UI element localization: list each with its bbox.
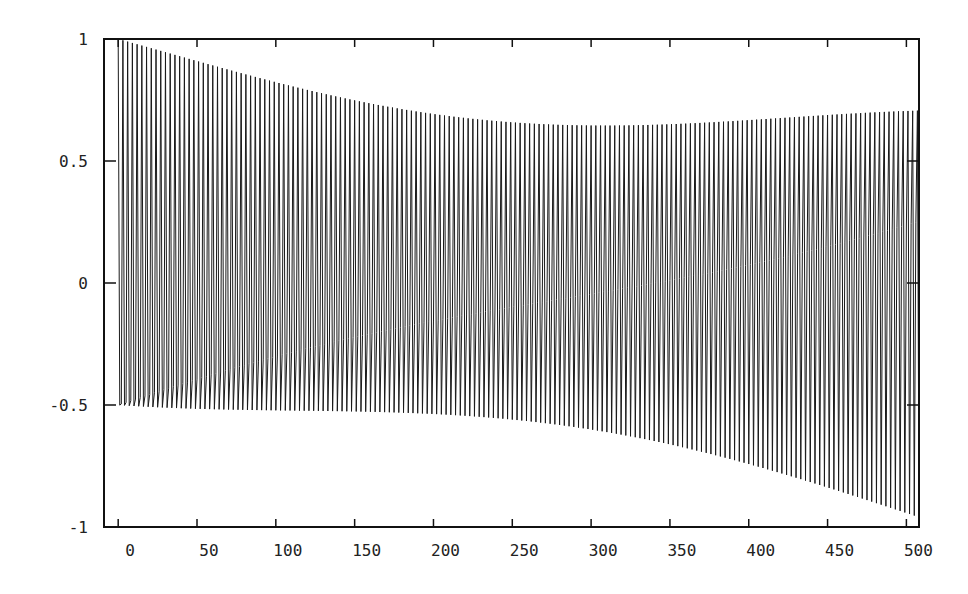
x-tick-label: 0: [125, 541, 135, 560]
y-tick-label: 1: [78, 30, 88, 49]
x-tick-label: 200: [431, 541, 460, 560]
y-tick-label: 0: [78, 274, 88, 293]
y-tick-label: 0.5: [59, 152, 88, 171]
y-tick-label: -1: [69, 518, 88, 537]
x-tick-label: 450: [825, 541, 854, 560]
x-tick-label: 150: [352, 541, 381, 560]
x-tick-label: 350: [667, 541, 696, 560]
x-tick-label: 50: [199, 541, 218, 560]
x-tick-label: 100: [273, 541, 302, 560]
y-tick-label: -0.5: [49, 396, 88, 415]
x-tick-label: 250: [510, 541, 539, 560]
waveform-chart: 050100150200250300350400450500 10.50-0.5…: [0, 0, 968, 594]
x-tick-label: 500: [904, 541, 933, 560]
x-tick-label: 400: [746, 541, 775, 560]
x-tick-label: 300: [589, 541, 618, 560]
